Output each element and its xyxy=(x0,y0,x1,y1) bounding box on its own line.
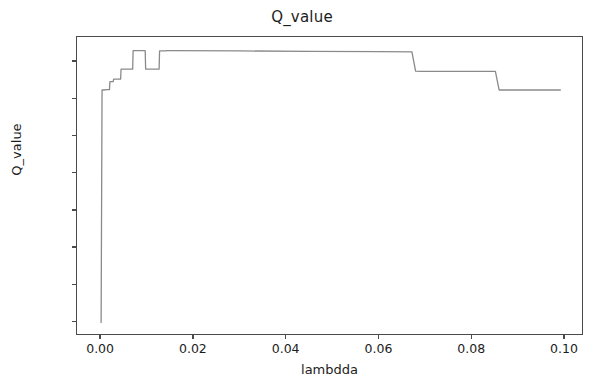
x-tick-mark xyxy=(471,335,472,339)
y-tick-mark xyxy=(72,172,76,173)
x-tick-label: 0.06 xyxy=(348,341,408,356)
x-axis-label: lambdda xyxy=(76,362,583,377)
x-tick-label: 0.02 xyxy=(163,341,223,356)
x-tick-mark xyxy=(285,335,286,339)
x-tick-mark xyxy=(192,335,193,339)
series-line-q-value xyxy=(101,51,560,323)
y-tick-mark xyxy=(72,321,76,322)
x-tick-label: 0.04 xyxy=(256,341,316,356)
y-tick-mark xyxy=(72,98,76,99)
chart-title: Q_value xyxy=(0,8,604,26)
y-tick-mark xyxy=(72,209,76,210)
y-axis-label: Q_value xyxy=(9,70,24,230)
x-tick-mark xyxy=(563,335,564,339)
plot-area xyxy=(76,36,583,335)
x-tick-label: 0.08 xyxy=(441,341,501,356)
x-tick-label: 0.00 xyxy=(70,341,130,356)
x-tick-mark xyxy=(378,335,379,339)
y-tick-mark xyxy=(72,135,76,136)
y-tick-mark xyxy=(72,246,76,247)
chart-figure: Q_value 02468101214 0.000.020.040.060.08… xyxy=(0,0,604,392)
x-tick-mark xyxy=(99,335,100,339)
y-tick-mark xyxy=(72,284,76,285)
data-line-svg xyxy=(77,37,584,336)
y-tick-mark xyxy=(72,60,76,61)
x-tick-label: 0.10 xyxy=(534,341,594,356)
